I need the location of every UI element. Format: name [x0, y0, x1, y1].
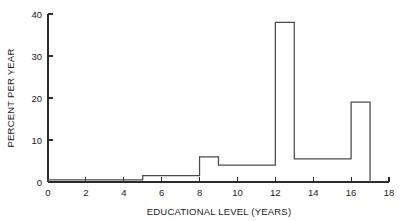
x-tick-label: 12 [270, 187, 281, 198]
y-tick-label: 20 [31, 93, 42, 104]
x-tick-label: 18 [384, 187, 395, 198]
y-tick-label: 30 [31, 51, 42, 62]
x-tick-label: 2 [83, 187, 88, 198]
histogram-bars [48, 22, 370, 182]
y-tick-label: 0 [37, 177, 42, 188]
y-tick-label: 40 [31, 9, 42, 20]
histogram-outline [48, 22, 370, 182]
x-tick-label: 8 [197, 187, 202, 198]
x-tick-label: 16 [346, 187, 357, 198]
x-axis-title: EDUCATIONAL LEVEL (YEARS) [147, 206, 292, 217]
x-tick-label: 4 [121, 187, 126, 198]
y-tick-label: 10 [31, 135, 42, 146]
y-axis-title: PERCENT PER YEAR [5, 49, 16, 148]
x-tick-label: 10 [232, 187, 243, 198]
x-tick-label: 14 [308, 187, 319, 198]
histogram-figure: 024681012141618 010203040 EDUCATIONAL LE… [0, 0, 406, 221]
x-tick-label: 6 [159, 187, 164, 198]
y-tick-labels: 010203040 [31, 9, 42, 188]
x-tick-label: 0 [45, 187, 50, 198]
x-tick-labels: 024681012141618 [45, 187, 394, 198]
histogram-plot: 024681012141618 010203040 EDUCATIONAL LE… [0, 0, 406, 221]
